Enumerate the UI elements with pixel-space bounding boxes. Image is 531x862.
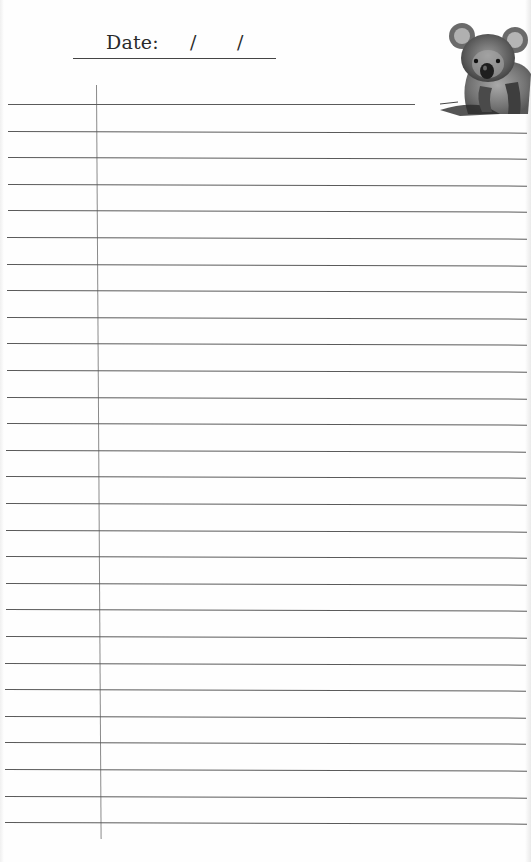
ruled-line[interactable] [5, 689, 526, 692]
ruled-line[interactable] [7, 370, 527, 373]
ruled-line[interactable] [7, 397, 527, 400]
ruled-line[interactable] [6, 530, 527, 533]
ruled-line[interactable] [5, 742, 526, 745]
ruled-line[interactable] [7, 290, 527, 293]
ruled-line[interactable] [7, 264, 527, 267]
ruled-line[interactable] [6, 503, 527, 506]
page-right-edge-shadow [525, 0, 531, 862]
date-underline[interactable] [73, 58, 276, 59]
ruled-line[interactable] [8, 104, 415, 105]
ruled-line[interactable] [7, 343, 527, 346]
ruled-line[interactable] [6, 636, 527, 639]
ruled-line[interactable] [6, 450, 526, 453]
ruled-line[interactable] [8, 210, 527, 213]
ruled-line[interactable] [7, 423, 527, 426]
ruled-line[interactable] [6, 556, 527, 559]
ruled-line[interactable] [6, 609, 527, 612]
date-separator-2: / [237, 31, 243, 53]
margin-line [96, 85, 102, 839]
ruled-line[interactable] [6, 583, 527, 586]
ruled-line[interactable] [6, 476, 526, 479]
ruled-line[interactable] [5, 769, 527, 772]
koala-icon [440, 14, 531, 118]
date-label: Date: [106, 31, 159, 53]
ruled-line[interactable] [7, 317, 527, 320]
page-left-edge-shadow [0, 0, 4, 862]
ruled-line[interactable] [5, 796, 527, 799]
ruled-line[interactable] [8, 157, 527, 160]
ruled-line[interactable] [7, 237, 527, 240]
notebook-page: Date: / / [0, 0, 531, 862]
ruled-line[interactable] [5, 822, 527, 825]
ruled-line[interactable] [5, 663, 526, 666]
date-separator-1: / [190, 31, 196, 53]
ruled-line[interactable] [8, 184, 527, 187]
ruled-line[interactable] [8, 131, 527, 134]
ruled-line[interactable] [5, 716, 526, 719]
